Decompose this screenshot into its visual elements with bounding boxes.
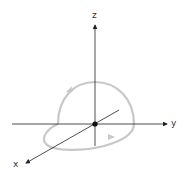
loop-direction-arrow-lower [108,134,115,140]
x-axis-label: x [13,160,18,169]
diagram-canvas [0,0,189,180]
loop-upper-arc [58,82,134,124]
loop-lower-arc [44,124,134,150]
loop-direction-arrow-upper [66,86,72,93]
x-axis [26,110,119,163]
origin-dot [92,121,97,126]
y-axis-label: y [171,119,176,128]
z-axis-label: z [92,11,97,20]
